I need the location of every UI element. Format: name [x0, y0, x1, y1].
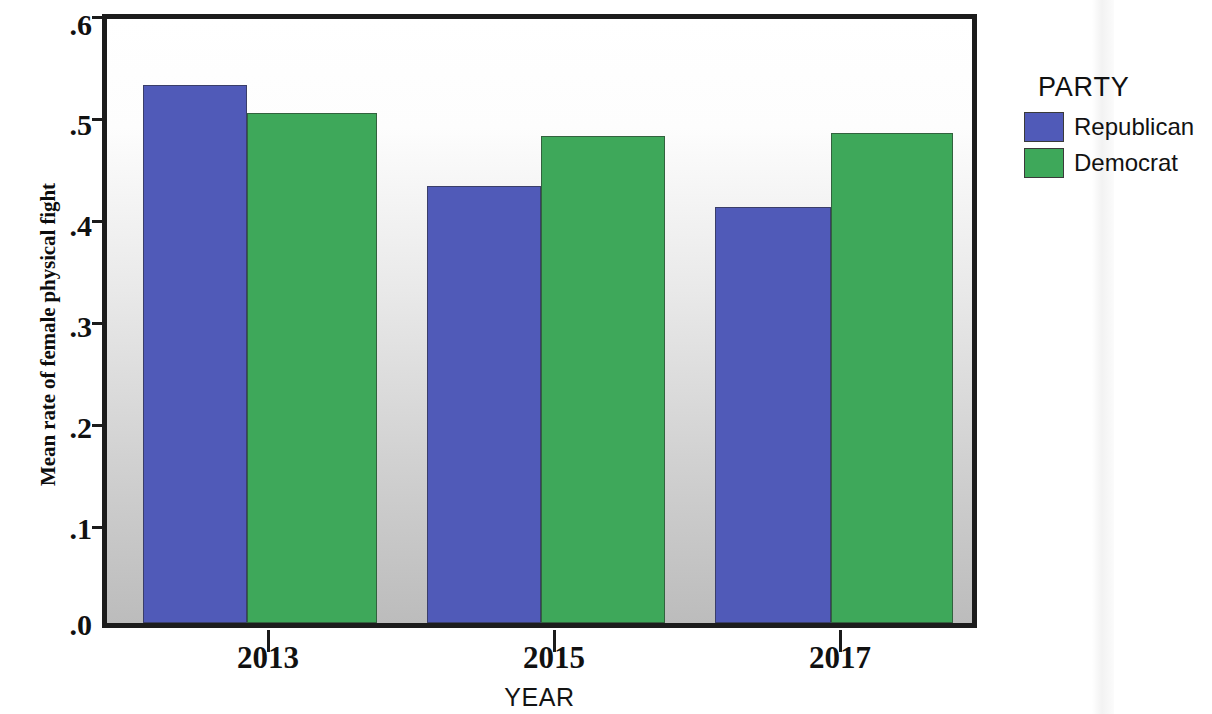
- bar-democrat-2017: [831, 133, 953, 623]
- legend-item-democrat[interactable]: Democrat: [1024, 148, 1212, 178]
- bar-chart-figure: Mean rate of female physical fight .6 .5…: [0, 0, 1212, 714]
- bar-republican-2015: [427, 186, 541, 623]
- bar-democrat-2015: [541, 136, 665, 623]
- x-axis-title: YEAR: [102, 683, 977, 712]
- bar-republican-2017: [715, 207, 831, 623]
- y-tick-label-6: .6: [40, 10, 92, 40]
- y-tick-label-3: .3: [40, 312, 92, 342]
- x-tick-label-2013: 2013: [188, 640, 348, 676]
- legend-label-republican: Republican: [1074, 113, 1194, 141]
- y-tick-label-1: .1: [40, 514, 92, 544]
- y-tick-label-0: .0: [40, 610, 92, 640]
- legend-swatch-republican: [1024, 112, 1064, 142]
- y-tick-label-4: .4: [40, 211, 92, 241]
- legend: PARTY Republican Democrat: [1024, 72, 1212, 184]
- bar-republican-2013: [143, 85, 247, 623]
- y-tick-label-5: .5: [40, 110, 92, 140]
- legend-item-republican[interactable]: Republican: [1024, 112, 1212, 142]
- plot-area: [102, 14, 977, 628]
- legend-swatch-democrat: [1024, 148, 1064, 178]
- plot-inner: [107, 19, 972, 623]
- legend-title: PARTY: [1038, 72, 1212, 103]
- bar-democrat-2013: [247, 113, 377, 623]
- x-tick-label-2017: 2017: [760, 640, 920, 676]
- x-tick-label-2015: 2015: [474, 640, 634, 676]
- legend-label-democrat: Democrat: [1074, 149, 1178, 177]
- y-tick-label-2: .2: [40, 413, 92, 443]
